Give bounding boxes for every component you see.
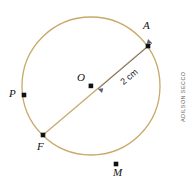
point-marker-a (146, 44, 151, 49)
geometry-figure: A O P F M 2 cm ADILSON SECCO (0, 0, 192, 184)
label-point-p: P (9, 88, 16, 99)
measure-arrowhead-center (98, 88, 103, 93)
point-marker-o (89, 84, 94, 89)
label-point-f: F (37, 141, 44, 152)
point-marker-p (22, 93, 27, 98)
label-center-o: O (77, 72, 85, 83)
credit-watermark: ADILSON SECCO (181, 72, 187, 122)
label-point-a: A (143, 20, 150, 31)
label-point-m: M (113, 167, 122, 178)
point-marker-f (41, 133, 46, 138)
measure-arrowhead-a (147, 39, 152, 44)
circle-diagram-svg (0, 0, 192, 184)
